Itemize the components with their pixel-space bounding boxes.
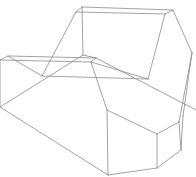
edge-P-R	[157, 122, 179, 134]
edge-N-O	[107, 110, 108, 175]
edge-B-G	[42, 12, 76, 76]
edge-L-N	[91, 62, 107, 110]
edge-N-P	[107, 110, 157, 134]
edge-group	[0, 7, 196, 175]
edge-I-J	[0, 56, 8, 60]
edge-L-H	[91, 62, 148, 79]
edge-A-B	[76, 7, 82, 12]
edge-T-S	[181, 116, 183, 150]
edge-J-L	[0, 60, 91, 62]
edge-E-R	[179, 53, 192, 122]
edge-K-L	[91, 58, 96, 62]
edge-A-C	[82, 7, 173, 10]
edge-F-M	[0, 55, 83, 107]
edge-E-T	[183, 53, 192, 116]
edge-C-E	[173, 10, 192, 53]
edge-I-G	[8, 56, 42, 76]
edge-B-D	[76, 12, 165, 14]
edge-D-H	[148, 14, 165, 79]
edge-Q-S	[157, 150, 181, 168]
edge-A-F	[82, 7, 83, 55]
edge-R-S	[179, 122, 181, 150]
edge-M-O	[0, 107, 108, 175]
edge-C-D	[165, 10, 173, 14]
edge-O-Q	[108, 168, 157, 175]
polyhedron-wireframe	[0, 0, 196, 177]
edge-K-U	[96, 58, 196, 110]
